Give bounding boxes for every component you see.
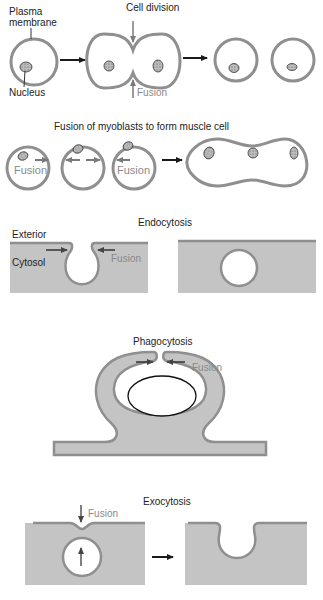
myoblast-fusion-title: Fusion of myoblasts to form muscle cell	[54, 121, 229, 132]
exterior-label: Exterior	[12, 229, 46, 240]
nucleus	[153, 60, 163, 72]
phagocytosis-title: Phagocytosis	[133, 336, 192, 347]
nucleus-label: Nucleus	[9, 87, 45, 98]
engulfed-particle	[128, 376, 196, 416]
daughter-cell	[272, 39, 314, 81]
nucleus	[104, 61, 114, 71]
fusion-label: Fusion	[137, 87, 167, 98]
cytosol-region	[10, 243, 148, 293]
nucleus	[20, 62, 32, 72]
cytosol-label: Cytosol	[12, 257, 45, 268]
exocytosis-title: Exocytosis	[143, 496, 191, 507]
fusion-label: Fusion	[88, 508, 118, 519]
plasma-membrane-label-1: Plasma	[9, 6, 42, 17]
phagocytosis-panel	[54, 352, 266, 455]
cell-division-title: Cell division	[126, 2, 179, 13]
secretory-vesicle	[63, 538, 101, 576]
myoblast-fusion-panel	[7, 139, 307, 189]
fusion-label: Fusion	[14, 165, 47, 176]
endocytosis-title: Endocytosis	[138, 217, 192, 228]
nucleus	[290, 147, 298, 159]
nucleus	[229, 64, 239, 73]
endocytosis-panel	[10, 241, 316, 293]
nucleus	[287, 64, 297, 71]
fusion-label: Fusion	[192, 362, 222, 373]
plasma-membrane-label-2: membrane	[9, 17, 57, 28]
dividing-cell	[87, 34, 180, 88]
fusion-label: Fusion	[111, 253, 141, 264]
nucleus	[248, 148, 258, 158]
exocytosis-panel	[25, 505, 307, 585]
muscle-cell	[187, 139, 307, 186]
cytosol-region	[185, 523, 307, 585]
cell-original	[11, 39, 57, 85]
endocytic-vesicle	[221, 250, 257, 286]
fusion-label: Fusion	[117, 165, 150, 176]
daughter-cell	[215, 39, 257, 81]
myoblast	[62, 147, 104, 189]
